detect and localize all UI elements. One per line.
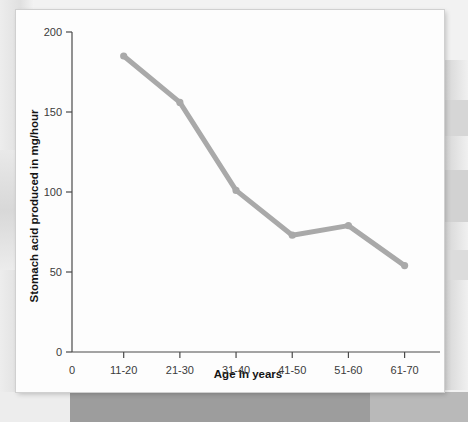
y-axis-title: Stomach acid produced in mg/hour — [28, 109, 40, 302]
x-tick-label: 61-70 — [391, 364, 419, 376]
background-smudge — [0, 392, 70, 422]
x-axis-ticks: 011-2021-3031-4041-5051-6061-70 — [69, 352, 419, 376]
y-tick-label: 150 — [44, 106, 62, 118]
y-tick-label: 200 — [44, 26, 62, 38]
series-line — [124, 56, 405, 266]
x-tick-label: 11-20 — [110, 364, 137, 376]
x-tick-label: 51-60 — [334, 364, 362, 376]
page-root: Stomach acid produced in mg/hour Age in … — [0, 0, 468, 422]
x-tick-label: 31-40 — [222, 364, 250, 376]
data-point — [345, 222, 352, 229]
y-tick-label: 100 — [44, 186, 62, 198]
x-tick-label: 41-50 — [278, 364, 306, 376]
line-chart: Stomach acid produced in mg/hour Age in … — [16, 10, 444, 392]
chart-card: Stomach acid produced in mg/hour Age in … — [16, 10, 444, 392]
data-point — [176, 99, 183, 106]
x-origin-label: 0 — [69, 364, 75, 376]
x-tick-label: 21-30 — [166, 364, 194, 376]
background-band — [370, 392, 468, 422]
y-axis-ticks: 050100150200 — [44, 26, 72, 358]
background-band — [70, 392, 370, 422]
data-point — [401, 262, 408, 269]
data-series — [120, 52, 408, 269]
y-tick-label: 0 — [56, 346, 62, 358]
data-point — [232, 187, 239, 194]
data-point — [289, 232, 296, 239]
y-tick-label: 50 — [50, 266, 62, 278]
data-point — [120, 52, 127, 59]
